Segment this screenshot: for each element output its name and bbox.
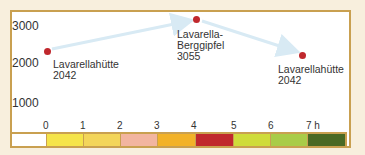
x-tick-2: 2 [117,121,123,131]
point-start-dot [44,48,51,55]
x-tick-4: 4 [191,121,197,131]
time-segment-7 [271,132,308,146]
time-segment-3 [121,132,158,146]
time-segment-6 [234,132,271,146]
x-tick-3: 3 [154,121,160,131]
point-summit-dot [193,16,200,23]
point-summit-label: Lavarella- Berggipfel 3055 [177,29,224,62]
time-segment-4 [158,132,196,146]
x-tick-6: 6 [268,121,274,131]
time-segment-0 [10,132,47,146]
x-tick-0: 0 [43,121,49,131]
x-tick-5: 5 [231,121,237,131]
point-end-dot [299,52,306,59]
time-segment-2 [84,132,121,146]
time-bar [10,132,347,146]
point-start-label: Lavarellahütte 2042 [53,59,119,81]
x-tick-1: 1 [80,121,86,131]
time-segment-8 [308,132,347,146]
x-tick-7h: 7 h [306,121,320,131]
time-segment-1 [47,132,84,146]
time-segment-5 [196,132,234,146]
point-end-label: Lavarellahütte 2042 [278,64,344,86]
